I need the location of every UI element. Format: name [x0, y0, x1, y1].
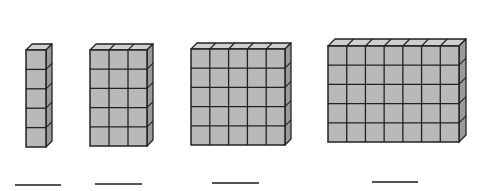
cube-blocks-diagram	[0, 0, 488, 191]
block-side-face	[459, 39, 466, 142]
cube-block-2	[90, 44, 153, 146]
block-front-face	[191, 49, 285, 145]
answer-line-block-2[interactable]	[95, 183, 142, 185]
cube-block-3	[191, 43, 291, 145]
block-side-face	[285, 43, 291, 145]
block-top-face	[90, 44, 153, 50]
block-side-face	[147, 44, 153, 146]
block-side-face	[46, 44, 52, 147]
answer-line-block-4[interactable]	[372, 181, 418, 183]
block-front-face	[90, 50, 147, 146]
blocks-canvas	[0, 0, 488, 191]
block-front-face	[26, 50, 46, 147]
answer-line-block-1[interactable]	[15, 184, 61, 186]
block-top-face	[328, 39, 466, 46]
cube-block-1	[26, 44, 52, 147]
answer-line-block-3[interactable]	[212, 182, 259, 184]
cube-block-4	[328, 39, 466, 142]
block-front-face	[328, 46, 459, 142]
block-top-face	[191, 43, 291, 49]
